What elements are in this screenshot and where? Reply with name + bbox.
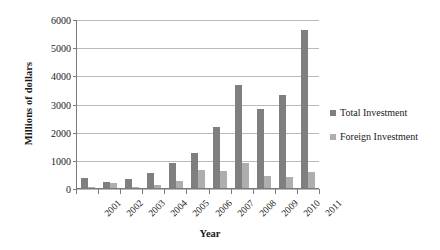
legend: Total Investment Foreign Investment	[330, 108, 418, 156]
bar-group	[275, 20, 297, 188]
x-tick-label: 2005	[191, 198, 212, 219]
bar-group	[99, 20, 121, 188]
legend-item-foreign: Foreign Investment	[330, 132, 418, 142]
bar-group	[77, 20, 99, 188]
bar-foreign	[154, 185, 161, 188]
plot-area: 0100020003000400050006000	[76, 20, 319, 189]
bar-total	[235, 85, 242, 188]
x-tick-label: 2002	[125, 198, 146, 219]
y-tick-label: 0	[31, 184, 71, 195]
x-tick-label: 2011	[323, 198, 343, 218]
bar-foreign	[88, 187, 95, 188]
x-axis-tick-labels: 2001200220032004200520062007200820092010…	[76, 190, 319, 230]
legend-swatch-icon-foreign	[330, 134, 336, 140]
bar-total	[301, 30, 308, 188]
bar-group	[187, 20, 209, 188]
y-tick-label: 1000	[31, 155, 71, 166]
bar-foreign	[110, 183, 117, 188]
bar-total	[213, 127, 220, 188]
bar-total	[169, 163, 176, 188]
x-tick-label: 2006	[213, 198, 234, 219]
bar-group	[253, 20, 275, 188]
bar-groups	[77, 20, 319, 188]
bar-foreign	[176, 181, 183, 188]
legend-label-foreign: Foreign Investment	[340, 132, 418, 142]
bar-foreign	[308, 172, 315, 188]
x-tick-label: 2009	[279, 198, 300, 219]
bar-total	[103, 182, 110, 188]
bar-group	[165, 20, 187, 188]
bar-total	[81, 178, 88, 188]
bar-foreign	[132, 187, 139, 188]
bar-foreign	[286, 177, 293, 188]
legend-label-total: Total Investment	[340, 108, 407, 118]
bar-chart: Millions of dollars 01000200030004000500…	[0, 0, 440, 250]
bar-total	[125, 179, 132, 188]
bar-group	[143, 20, 165, 188]
bar-foreign	[220, 171, 227, 188]
x-tick-label: 2001	[103, 198, 124, 219]
bar-group	[121, 20, 143, 188]
x-tick-label: 2004	[169, 198, 190, 219]
y-tick-label: 2000	[31, 127, 71, 138]
y-tick-label: 4000	[31, 71, 71, 82]
x-tick-label: 2003	[147, 198, 168, 219]
bar-total	[257, 109, 264, 188]
x-axis-title: Year	[150, 228, 270, 239]
bar-total	[279, 95, 286, 188]
legend-swatch-icon-total	[330, 110, 336, 116]
x-tick-label: 2008	[257, 198, 278, 219]
bar-group	[231, 20, 253, 188]
bar-foreign	[198, 170, 205, 188]
y-tick-label: 6000	[31, 15, 71, 26]
legend-item-total: Total Investment	[330, 108, 418, 118]
bar-foreign	[264, 176, 271, 188]
y-tick-label: 3000	[31, 99, 71, 110]
bar-group	[297, 20, 319, 188]
bar-foreign	[242, 163, 249, 188]
x-tick-mark	[319, 189, 320, 194]
y-tick-label: 5000	[31, 43, 71, 54]
bar-total	[191, 153, 198, 188]
x-tick-label: 2007	[235, 198, 256, 219]
x-tick-label: 2010	[301, 198, 322, 219]
bar-total	[147, 173, 154, 188]
bar-group	[209, 20, 231, 188]
